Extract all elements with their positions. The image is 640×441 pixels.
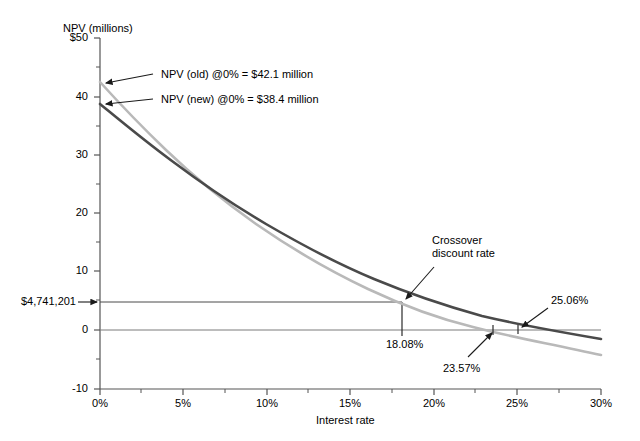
x-tick-label-5: 5% [163, 397, 203, 410]
y-tick-label-0: 0 [48, 323, 88, 336]
irr-new-label: 25.06% [551, 294, 588, 307]
crossover-leader-arrow [406, 267, 434, 299]
y-tick-label-50: $50 [48, 31, 88, 44]
y-tick-label-neg10: -10 [44, 382, 88, 395]
npv-new-curve [100, 104, 601, 339]
crossover-rate-label: 18.08% [386, 338, 423, 351]
y-tick-label-40: 40 [48, 90, 88, 103]
chart-page: NPV (millions) $50 40 30 20 10 0 -10 0% … [0, 0, 640, 441]
npv-old-leader-arrow [106, 74, 153, 83]
crossover-annotation-line2: discount rate [432, 247, 495, 260]
irr-old-label: 23.57% [443, 362, 480, 375]
y-tick-label-10: 10 [48, 264, 88, 277]
x-tick-label-20: 20% [414, 397, 454, 410]
irr-new-leader-arrow [522, 308, 548, 327]
y-tick-label-30: 30 [48, 148, 88, 161]
crossover-value-label: $4,741,201 [0, 295, 76, 308]
x-tick-label-10: 10% [247, 397, 287, 410]
x-tick-label-30: 30% [581, 397, 621, 410]
npv-new-annotation: NPV (new) @0% = $38.4 million [161, 93, 319, 106]
x-axis-title: Interest rate [316, 414, 375, 427]
x-tick-label-25: 25% [497, 397, 537, 410]
x-tick-label-0: 0% [80, 397, 120, 410]
y-tick-label-20: 20 [48, 206, 88, 219]
y-axis-major-ticks [94, 38, 100, 389]
npv-crossover-chart [0, 0, 640, 441]
crossover-annotation-line1: Crossover [432, 234, 482, 247]
x-tick-label-15: 15% [330, 397, 370, 410]
irr-old-leader-arrow [468, 333, 492, 357]
npv-old-curve [100, 82, 601, 355]
x-axis-major-ticks [100, 389, 601, 395]
npv-old-annotation: NPV (old) @0% = $42.1 million [161, 68, 313, 81]
npv-new-leader-arrow [106, 99, 153, 104]
